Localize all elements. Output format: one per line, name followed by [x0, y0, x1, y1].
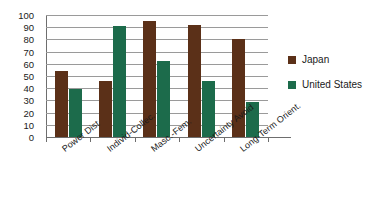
bar-united-states — [113, 26, 126, 137]
bar-group — [48, 15, 88, 137]
legend-swatch-icon — [288, 56, 296, 64]
y-axis-tick-label: 40 — [0, 84, 34, 94]
chart-legend: JapanUnited States — [288, 54, 373, 104]
legend-label: Japan — [302, 54, 329, 65]
bar-japan — [99, 81, 112, 137]
y-axis-tick-label: 80 — [0, 35, 34, 45]
legend-label: United States — [302, 79, 362, 90]
bar-group — [93, 15, 133, 137]
bar-united-states — [157, 61, 170, 137]
bar-japan — [55, 71, 68, 137]
y-axis-tick-label: 100 — [0, 11, 34, 21]
y-axis-tick-label: 60 — [0, 60, 34, 70]
x-axis-category-labels: Power DistIndivid-Collec.Masc.-Fem.Uncer… — [0, 140, 300, 220]
y-axis-tick-label: 70 — [0, 48, 34, 58]
y-axis-tick-label: 90 — [0, 23, 34, 33]
legend-swatch-icon — [288, 81, 296, 89]
bar-united-states — [202, 81, 215, 137]
y-axis-tick-label: 30 — [0, 96, 34, 106]
bar-chart: 1009080706050403020100 Power DistIndivid… — [0, 0, 373, 222]
y-axis-labels: 1009080706050403020100 — [0, 15, 42, 137]
y-axis-tick-label: 20 — [0, 109, 34, 119]
y-axis-tick-label: 10 — [0, 121, 34, 131]
legend-item: Japan — [288, 54, 373, 65]
legend-item: United States — [288, 79, 373, 90]
y-axis-tick-label: 50 — [0, 72, 34, 82]
